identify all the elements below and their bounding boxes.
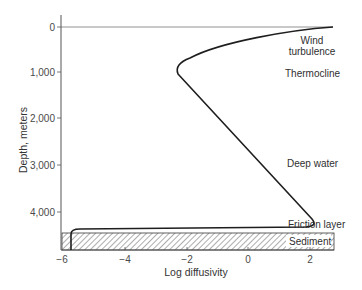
x-tick-label: 2 [307, 254, 313, 265]
annotation-turbulence: turbulence [289, 46, 336, 57]
y-axis-label: Depth, meters [17, 107, 29, 173]
y-axis: 0 1,000 2,000 3,000 4,000 Depth, meters [17, 15, 61, 250]
annotation-deep-water: Deep water [287, 158, 339, 169]
annotation-thermocline: Thermocline [285, 68, 340, 79]
x-tick-label: 0 [245, 254, 251, 265]
x-axis-label: Log diffusivity [164, 266, 228, 278]
annotations: Wind turbulence Thermocline Deep water F… [285, 35, 346, 247]
y-tick-label: 3,000 [30, 160, 55, 171]
y-tick-label: 4,000 [30, 207, 55, 218]
diffusivity-curve [71, 27, 333, 250]
y-tick-label: 0 [49, 22, 55, 33]
x-axis: −6 −4 −2 0 2 Log diffusivity [56, 247, 334, 278]
x-tick-label: −2 [181, 254, 193, 265]
diffusivity-depth-chart: 0 1,000 2,000 3,000 4,000 Depth, meters … [0, 0, 362, 290]
x-tick-label: −6 [56, 254, 68, 265]
y-tick-label: 2,000 [30, 113, 55, 124]
annotation-sediment: Sediment [289, 236, 331, 247]
annotation-friction-layer: Friction layer [288, 219, 346, 230]
annotation-wind: Wind [301, 35, 324, 46]
x-tick-label: −4 [119, 254, 131, 265]
y-tick-label: 1,000 [30, 67, 55, 78]
